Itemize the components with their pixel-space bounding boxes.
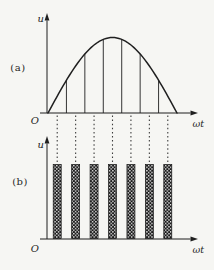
panel-a-label: (a): [10, 62, 25, 73]
panel-a-y-axis-label: u: [38, 13, 44, 24]
panel-a-x-axis-label: ωt: [193, 118, 205, 129]
pulse-bar: [53, 165, 61, 239]
pulse-bar: [72, 165, 80, 239]
panel-b-y-axis-label: u: [38, 139, 44, 150]
panel-b-origin-label: O: [31, 243, 39, 254]
panel-a-plot: [40, 13, 198, 115]
pulse-bar: [127, 165, 135, 239]
panel-b-x-axis-label: ωt: [193, 244, 205, 255]
pwm-equivalence-figure: u (a) O ωt u (b) O ωt: [0, 0, 214, 270]
pulse-bar: [109, 165, 117, 239]
figure-page: u (a) O ωt u (b) O ωt: [0, 0, 214, 270]
panel-b-plot: [40, 136, 198, 241]
panel-b-label: (b): [12, 176, 28, 187]
x-axis-arrowhead: [191, 111, 199, 116]
pulse-bar: [90, 165, 98, 239]
y-axis-arrowhead: [45, 136, 50, 144]
half-sine-curve: [48, 38, 177, 114]
y-axis-arrowhead: [45, 13, 50, 21]
pulse-bar: [164, 165, 172, 239]
pulse-bar: [145, 165, 153, 239]
connector-dashed-lines: [57, 116, 168, 164]
x-axis-arrowhead: [191, 237, 199, 242]
panel-a-origin-label: O: [31, 115, 39, 126]
